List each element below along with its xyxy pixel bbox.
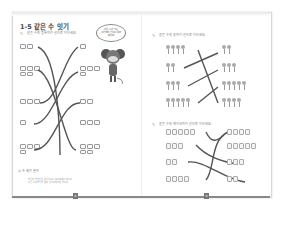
page-number-left: 8 <box>73 193 78 199</box>
flower-icon <box>227 63 231 72</box>
item-group <box>166 129 195 135</box>
item-group <box>166 143 183 149</box>
flower-icon <box>227 98 231 107</box>
item-group <box>166 159 177 165</box>
flower-icon <box>166 63 170 72</box>
cake-icon <box>172 143 177 149</box>
item-group <box>222 98 241 107</box>
cake-icon <box>178 176 183 182</box>
item-group <box>166 45 185 54</box>
item-group <box>166 176 189 182</box>
flower-icon <box>222 63 226 72</box>
item-group <box>166 63 175 72</box>
flower-icon <box>171 63 175 72</box>
cake-icon <box>178 143 183 149</box>
item-group <box>227 129 250 135</box>
cake-icon <box>172 129 177 135</box>
cake-icon <box>245 143 250 149</box>
cake-icon <box>184 176 189 182</box>
cake-icon <box>227 159 232 165</box>
cake-icon <box>239 129 244 135</box>
flower-icon <box>222 98 226 107</box>
flower-icon <box>171 98 175 107</box>
page-number-right: 9 <box>204 193 209 199</box>
flower-icon <box>222 45 226 54</box>
flower-icon <box>181 45 185 54</box>
item-group <box>227 176 238 182</box>
cake-icon <box>227 176 232 182</box>
cake-icon <box>178 129 183 135</box>
tip-line: 같은 수의 블록을 찾아 선으로 이으면 됩니다. <box>28 180 69 184</box>
cake-icon <box>172 176 177 182</box>
cake-icon <box>239 143 244 149</box>
footer-bar <box>12 196 270 198</box>
flower-icon <box>222 81 226 90</box>
flower-icon <box>176 45 180 54</box>
item-group <box>166 81 180 90</box>
item-group <box>227 159 244 165</box>
cake-icon <box>227 129 232 135</box>
flower-icon <box>232 63 236 72</box>
cake-icon <box>227 143 232 149</box>
flower-icon <box>171 45 175 54</box>
cake-icon <box>190 129 195 135</box>
cake-icon <box>233 143 238 149</box>
flower-icon <box>166 45 170 54</box>
item-group <box>222 45 231 54</box>
flower-icon <box>171 81 175 90</box>
flower-icon <box>166 81 170 90</box>
cake-icon <box>166 159 171 165</box>
flower-icon <box>232 98 236 107</box>
flower-icon <box>242 81 246 90</box>
flower-icon <box>237 98 241 107</box>
cake-icon <box>184 129 189 135</box>
flower-icon <box>237 81 241 90</box>
pencil-icon: ✎ <box>152 122 157 126</box>
flower-icon <box>186 98 190 107</box>
pencil-icon: ✎ <box>152 33 157 37</box>
item-group <box>166 98 190 107</box>
flower-icon <box>176 98 180 107</box>
cake-icon <box>166 176 171 182</box>
flower-icon <box>232 81 236 90</box>
cake-icon <box>233 159 238 165</box>
cake-icon <box>233 129 238 135</box>
instruction-flowers: ✎같은 수의 꽃끼리 선으로 이으세요. <box>152 33 206 37</box>
cake-icon <box>245 129 250 135</box>
flower-icon <box>166 98 170 107</box>
flower-icon <box>227 81 231 90</box>
flower-icon <box>176 81 180 90</box>
cake-icon <box>233 176 238 182</box>
flower-icon <box>227 45 231 54</box>
cake-icon <box>166 129 171 135</box>
tip-heading: ☺ 수 세기 놀이 <box>18 169 39 173</box>
item-group <box>222 81 246 90</box>
instruction-cakes: ✎같은 수의 케이크끼리 선으로 이으세요. <box>152 122 212 126</box>
flower-icon <box>181 98 185 107</box>
cake-icon <box>166 143 171 149</box>
item-group <box>222 63 236 72</box>
item-group <box>227 143 256 149</box>
cake-icon <box>172 159 177 165</box>
cake-icon <box>239 159 244 165</box>
cake-icon <box>251 143 256 149</box>
